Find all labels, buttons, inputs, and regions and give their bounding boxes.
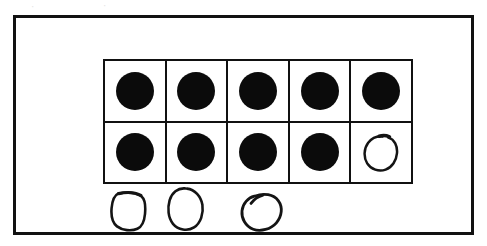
loose-counters-group bbox=[109, 186, 319, 234]
ten-frame-cell-r1c2[interactable] bbox=[167, 61, 229, 123]
filled-counter-icon bbox=[116, 133, 154, 171]
filled-counter-icon bbox=[239, 133, 277, 171]
ten-frame-grid bbox=[103, 59, 413, 184]
ten-frame-cell-r2c2[interactable] bbox=[167, 123, 229, 185]
ten-frame-cell-r2c5[interactable] bbox=[351, 123, 413, 185]
hand-drawn-open-circle-icon bbox=[109, 190, 151, 236]
filled-counter-icon bbox=[116, 72, 154, 110]
ten-frame-cell-r2c1[interactable] bbox=[105, 123, 167, 185]
filled-counter-icon bbox=[177, 133, 215, 171]
filled-counter-icon bbox=[301, 133, 339, 171]
filled-counter-icon bbox=[301, 72, 339, 110]
figure-outer-border bbox=[13, 15, 474, 235]
ten-frame-cell-r1c4[interactable] bbox=[290, 61, 352, 123]
hand-drawn-open-circle-icon bbox=[363, 132, 399, 172]
ten-frame-cell-r2c4[interactable] bbox=[290, 123, 352, 185]
ten-frame-cell-r1c3[interactable] bbox=[228, 61, 290, 123]
ten-frame-cell-r2c3[interactable] bbox=[228, 123, 290, 185]
figure-page: · · bbox=[0, 0, 487, 246]
ten-frame-cell-r1c1[interactable] bbox=[105, 61, 167, 123]
page-bleed-text: · · bbox=[0, 0, 487, 13]
ten-frame-cell-r1c5[interactable] bbox=[351, 61, 413, 123]
filled-counter-icon bbox=[362, 72, 400, 110]
filled-counter-icon bbox=[177, 72, 215, 110]
hand-drawn-open-circle-icon bbox=[166, 186, 206, 236]
page-bleed-fragment-1: · bbox=[31, 1, 34, 12]
filled-counter-icon bbox=[239, 72, 277, 110]
hand-drawn-open-circle-icon bbox=[239, 191, 285, 237]
page-bleed-fragment-2: · bbox=[103, 0, 106, 11]
